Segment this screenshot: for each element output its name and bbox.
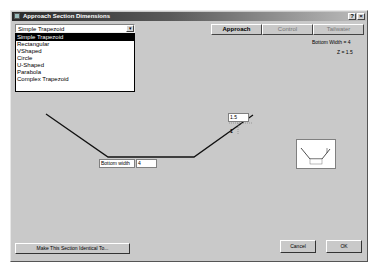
bottom-width-input[interactable]: 4: [136, 159, 157, 168]
make-identical-button[interactable]: Make This Section Identical To...: [15, 243, 130, 254]
bottom-width-label: Bottom width: [99, 159, 135, 168]
ok-button[interactable]: OK: [326, 240, 362, 253]
section-thumbnail: [296, 139, 336, 169]
trapezoid-thumbnail-icon: [297, 140, 335, 168]
cross-section-drawing: [11, 11, 369, 263]
approach-section-dialog: Approach Section Dimensions ? × Simple T…: [10, 10, 368, 262]
side-slope-input[interactable]: 1.5: [228, 113, 249, 122]
vertical-marker: 1: [230, 128, 233, 134]
cancel-button[interactable]: Cancel: [280, 240, 316, 253]
